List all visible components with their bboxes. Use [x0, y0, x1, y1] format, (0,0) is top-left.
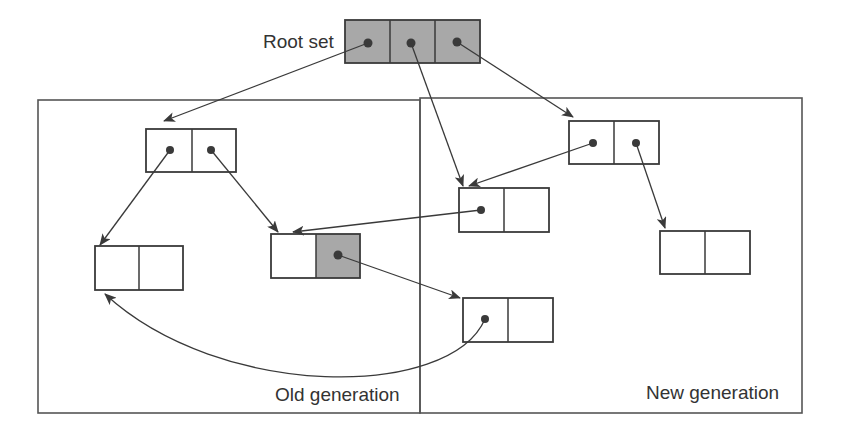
- root-set-label: Root set: [263, 31, 334, 52]
- edge-root1-to-e: [411, 43, 463, 186]
- edge-a0-to-b: [100, 150, 170, 245]
- object-node-c: [271, 234, 360, 278]
- root-set-node: [345, 20, 480, 63]
- object-node-a: [146, 129, 236, 172]
- gc-diagram: Root set Old generation New generation: [0, 0, 841, 440]
- edge-g0-to-b-curved: [105, 294, 485, 377]
- edge-root0-to-a: [164, 43, 368, 121]
- edge-e0-to-c: [293, 210, 481, 232]
- object-node-b: [95, 246, 183, 290]
- object-node-d: [569, 121, 659, 164]
- new-generation-label: New generation: [646, 382, 779, 403]
- object-node-e: [459, 188, 549, 232]
- object-node-f: [660, 231, 750, 274]
- edge-a1-to-c: [211, 150, 278, 232]
- old-generation-label: Old generation: [275, 384, 400, 405]
- object-node-g: [463, 298, 553, 342]
- edge-root2-to-d: [457, 42, 573, 117]
